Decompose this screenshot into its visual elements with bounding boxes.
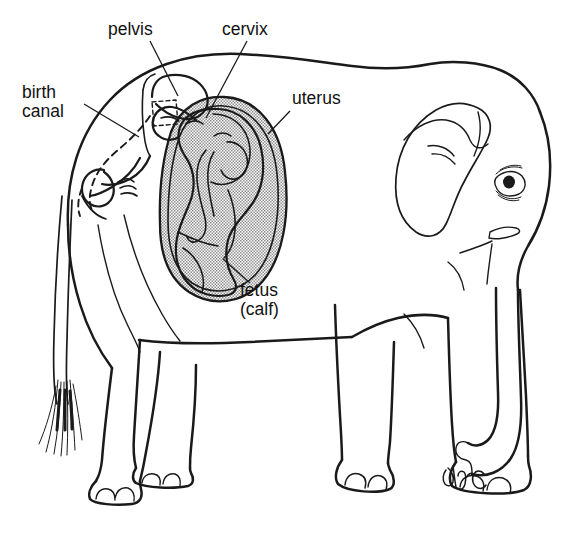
- mother-elephant-body: [39, 54, 550, 505]
- tail-hair-tuft: [39, 380, 82, 456]
- label-calf: (calf): [240, 299, 279, 319]
- trunk-tip-finger: [456, 442, 472, 474]
- eye-group: [495, 165, 525, 201]
- hind-leg-near-front: [190, 365, 196, 468]
- birth-canal-upper: [102, 156, 150, 185]
- rump-outline: [68, 225, 112, 368]
- vulva-fold-2: [120, 186, 136, 189]
- elephant-anatomy-svg: pelvis cervix birth canal uterus fetus (…: [0, 0, 573, 542]
- reproductive-tract: [78, 74, 286, 301]
- hind-leg-near-back: [134, 340, 140, 468]
- hind-leg-far: [96, 368, 112, 481]
- diagram-figure: pelvis cervix birth canal uterus fetus (…: [0, 0, 573, 542]
- ear-inner-fold-1: [404, 120, 488, 148]
- shoulder-crease: [404, 314, 424, 348]
- leader-birth-canal: [84, 104, 139, 137]
- trunk-inner: [468, 288, 498, 445]
- label-cervix: cervix: [222, 19, 268, 39]
- hind-foot-far-toenails: [96, 488, 134, 501]
- tail-left-edge: [54, 196, 62, 404]
- chest-outline: [352, 315, 448, 337]
- label-uterus: uterus: [292, 88, 341, 108]
- birth-canal-hidden-dashed: [90, 116, 150, 210]
- pelvis-hidden-dashed: [78, 188, 82, 216]
- jaw-line: [487, 244, 492, 284]
- label-fetus: fetus: [240, 280, 278, 300]
- ear-inner-fold-3: [432, 154, 455, 164]
- leader-uterus: [268, 111, 290, 134]
- ear-outline: [396, 103, 491, 236]
- label-canal: canal: [22, 101, 64, 121]
- pelvis-inner-edge: [142, 90, 150, 156]
- hind-leg-far-front: [140, 352, 160, 481]
- ear-back-edge: [474, 112, 480, 156]
- front-foot-far-toenails: [345, 473, 387, 490]
- tusk: [489, 227, 520, 239]
- cheek-line: [448, 262, 464, 290]
- front-leg-far-back: [335, 305, 342, 460]
- head-front-contour: [517, 112, 550, 290]
- thigh-contour: [98, 225, 140, 352]
- eye-pupil: [503, 176, 515, 189]
- front-leg-near-back: [448, 318, 456, 462]
- hind-foot-near-toenails: [142, 474, 180, 486]
- vulva-fold-3: [121, 193, 137, 196]
- belly-line: [139, 337, 352, 343]
- front-leg-far-front: [388, 342, 394, 463]
- label-pelvis: pelvis: [108, 19, 153, 39]
- label-birth: birth: [22, 82, 56, 102]
- mouth-line: [460, 241, 492, 253]
